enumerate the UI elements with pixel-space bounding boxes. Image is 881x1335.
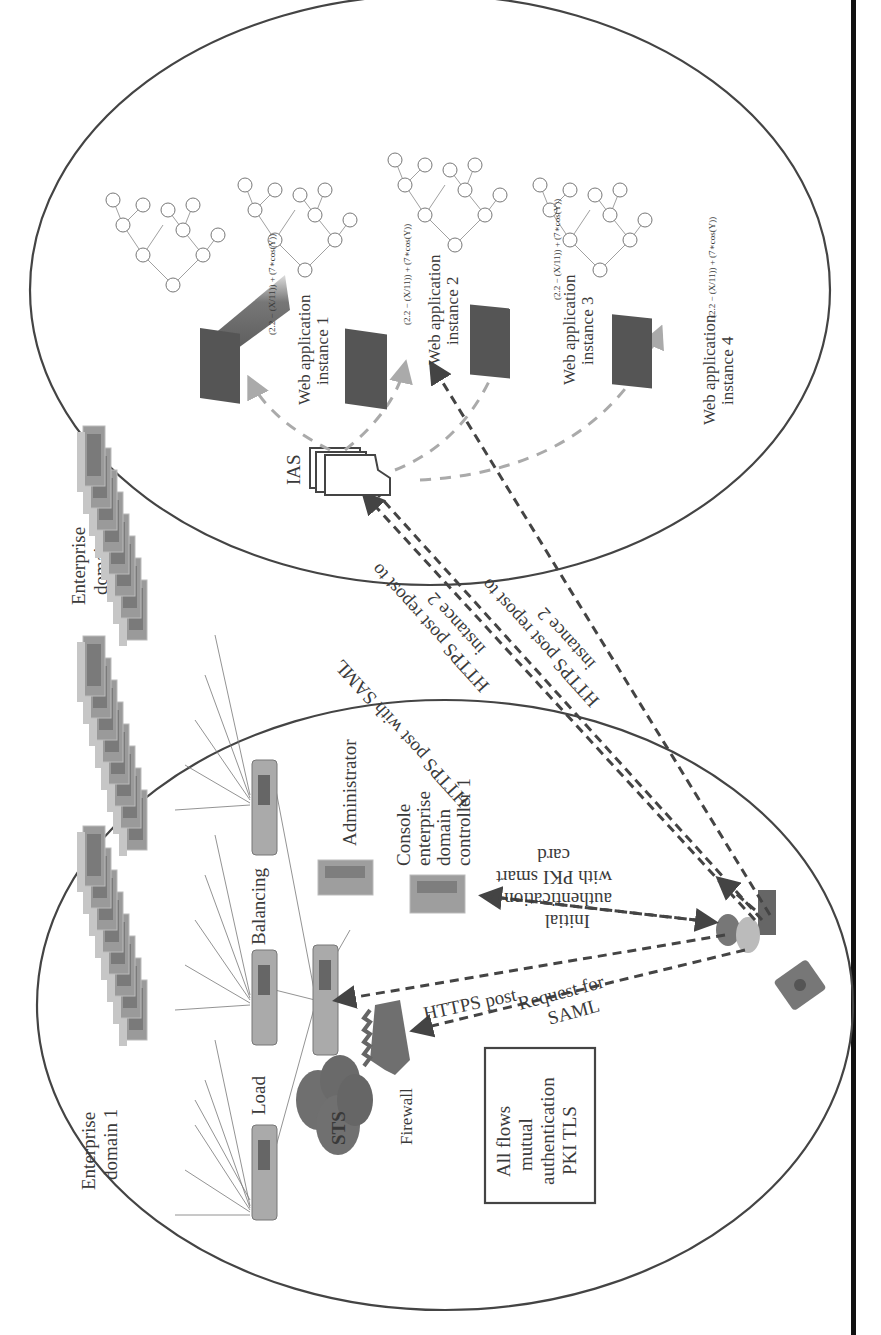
- server-farm-2: [77, 636, 147, 856]
- balancing-label: Balancing: [248, 867, 269, 945]
- request-saml-label: Request for SAML: [516, 971, 613, 1036]
- formula-1: (2.2 − (X/11)) + (7∗cos(Y)): [267, 234, 277, 335]
- svg-text:instance 4: instance 4: [718, 336, 737, 405]
- sts-label: STS: [328, 1111, 349, 1145]
- svg-text:Web application: Web application: [700, 314, 719, 425]
- svg-text:Web application: Web application: [295, 294, 314, 405]
- svg-text:domain: domain: [433, 809, 454, 866]
- svg-text:HTTPS post repost to: HTTPS post repost to: [367, 560, 493, 697]
- svg-text:PKI TLS: PKI TLS: [559, 1106, 580, 1175]
- https-post-label: HTTPS post: [421, 984, 518, 1024]
- web-app-4-label: Web application instance 4: [700, 314, 737, 425]
- administrator-server: [318, 860, 373, 895]
- formula-2: (2.2 − (X/11)) + (7∗cos(Y)): [402, 224, 412, 325]
- load-balancer-1: [252, 1125, 277, 1220]
- svg-text:All flows: All flows: [493, 1106, 514, 1177]
- load-balancer-3: [252, 760, 277, 855]
- web-app-server-4: [612, 314, 652, 388]
- svg-text:with PKI smart: with PKI smart: [495, 867, 612, 888]
- svg-text:Web application: Web application: [560, 274, 579, 385]
- load-balancer-2: [252, 950, 277, 1045]
- console-server: [410, 875, 465, 913]
- web-app-1-label: Web application instance 1: [295, 294, 332, 405]
- load-label: Load: [248, 1075, 269, 1115]
- svg-text:instance 3: instance 3: [578, 297, 597, 365]
- web-app-server-3: [470, 304, 510, 378]
- svg-text:Console: Console: [393, 804, 414, 866]
- svg-text:Web application: Web application: [425, 254, 444, 365]
- formula-4: (2.2 − (X/11)) + (7∗cos(Y)): [707, 217, 717, 318]
- svg-text:enterprise: enterprise: [413, 791, 434, 866]
- formula-3: (2.2 − (X/11)) + (7∗cos(Y)): [552, 199, 562, 300]
- web-app-2-label: Web application instance 2: [425, 254, 462, 365]
- svg-text:domain 1: domain 1: [100, 1109, 121, 1180]
- web-app-server-1b: [200, 328, 240, 404]
- repost-a-label: HTTPS post repost to instance 2: [367, 545, 509, 697]
- server-farm-1: [77, 826, 147, 1046]
- initial-auth-label: Initial authentication with PKI smart ca…: [495, 845, 612, 932]
- web-app-server-2: [345, 328, 387, 409]
- note-box: All flows mutual authentication PKI TLS: [485, 1048, 595, 1203]
- diagram-canvas: Enterprise domain 1 Enterprise domain 2 …: [0, 0, 881, 1335]
- administrator-label: Administrator: [339, 739, 360, 846]
- central-switch: [313, 945, 338, 1055]
- svg-text:authentication: authentication: [504, 889, 612, 910]
- expression-tree-2: [238, 178, 357, 277]
- svg-text:instance 1: instance 1: [313, 317, 332, 385]
- repost-b-label: HTTPS post repost to instance 2: [477, 560, 619, 712]
- svg-text:Enterprise: Enterprise: [68, 527, 89, 605]
- firewall-label: Firewall: [397, 1088, 416, 1145]
- firewall-icon: [364, 1000, 410, 1075]
- svg-text:authentication: authentication: [537, 1077, 558, 1185]
- smart-card-reader-icon: [773, 959, 826, 1011]
- ias-label: IAS: [283, 454, 304, 485]
- svg-text:card: card: [537, 845, 570, 866]
- expression-tree-4: [533, 178, 652, 277]
- svg-text:mutual: mutual: [515, 1118, 536, 1171]
- domain-1-label: Enterprise domain 1: [78, 1109, 121, 1190]
- web-app-3-label: Web application instance 3: [560, 274, 597, 385]
- expression-tree-1: [106, 193, 225, 292]
- svg-text:HTTPS post repost to: HTTPS post repost to: [477, 575, 603, 712]
- svg-text:Enterprise: Enterprise: [78, 1112, 99, 1190]
- ias-icon: [310, 448, 390, 495]
- svg-text:instance 2: instance 2: [443, 277, 462, 345]
- svg-text:Initial: Initial: [545, 911, 590, 932]
- user-client-icon: [716, 890, 776, 953]
